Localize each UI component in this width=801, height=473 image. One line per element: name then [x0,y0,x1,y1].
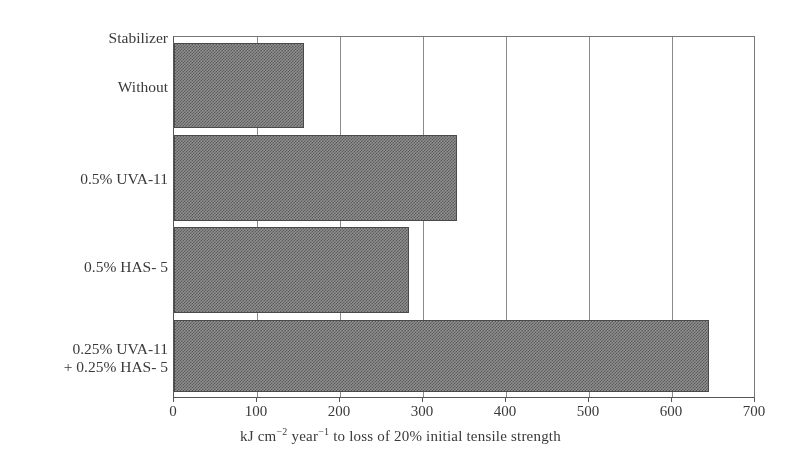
x-axis-title: kJ cm−2 year−1 to loss of 20% initial te… [0,428,801,445]
x-axis-title-sup-year: −1 [318,426,329,437]
xtick-label-400: 400 [475,402,535,421]
x-axis-title-pre: kJ cm [240,428,276,444]
category-label-without: Without [0,78,168,96]
bar-has5 [174,227,409,313]
bar-without [174,43,304,128]
xtick-label-100: 100 [226,402,286,421]
category-label-uva11: 0.5% UVA-11 [0,170,168,188]
bar-chart-figure: Stabilizer Without 0.5% UVA-11 0.5% HAS-… [0,0,801,473]
xtick-label-600: 600 [641,402,701,421]
x-axis-title-post: to loss of 20% initial tensile strength [333,428,561,444]
category-label-has5: 0.5% HAS- 5 [0,258,168,276]
xtick-label-500: 500 [558,402,618,421]
xtick-label-0: 0 [143,402,203,421]
category-axis-header: Stabilizer [0,29,168,47]
bar-uva11 [174,135,457,221]
bar-uva11-has5-mix [174,320,709,392]
plot-area [173,36,755,398]
xtick-label-200: 200 [309,402,369,421]
xtick-label-700: 700 [724,402,784,421]
x-axis-title-mid: year [292,428,319,444]
xtick-label-300: 300 [392,402,452,421]
category-label-uva11-has5-mix: 0.25% UVA-11 + 0.25% HAS- 5 [0,340,168,376]
x-axis-title-sup-cm: −2 [277,426,288,437]
